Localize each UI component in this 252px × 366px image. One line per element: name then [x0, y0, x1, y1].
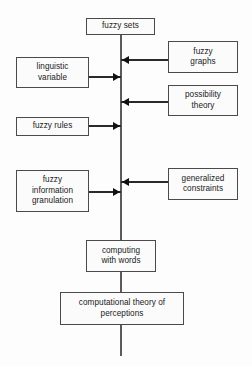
- spine-line-mid: [120, 272, 121, 292]
- spine-line-bottom: [120, 325, 121, 356]
- node-computing-with-words[interactable]: computing with words: [86, 240, 156, 272]
- arrowhead-possibility-theory: [122, 98, 129, 106]
- arrowhead-linguistic-variable: [113, 73, 120, 81]
- node-computational-theory-of-perceptions-label: computational theory of perceptions: [79, 298, 165, 319]
- node-fuzzy-rules[interactable]: fuzzy rules: [16, 117, 89, 136]
- node-fuzzy-graphs[interactable]: fuzzy graphs: [168, 41, 238, 73]
- node-linguistic-variable-label: linguistic variable: [37, 62, 69, 83]
- node-fuzzy-information-granulation-label: fuzzy information granulation: [32, 175, 73, 207]
- node-possibility-theory-label: possibility theory: [185, 90, 221, 111]
- node-fuzzy-sets[interactable]: fuzzy sets: [86, 18, 155, 35]
- node-fuzzy-graphs-label: fuzzy graphs: [190, 47, 215, 68]
- arrowhead-generalized-constraints: [122, 178, 129, 186]
- node-computational-theory-of-perceptions[interactable]: computational theory of perceptions: [60, 292, 184, 325]
- node-linguistic-variable[interactable]: linguistic variable: [16, 57, 89, 88]
- node-generalized-constraints-label: generalized constraints: [182, 174, 225, 195]
- node-fuzzy-information-granulation[interactable]: fuzzy information granulation: [16, 170, 89, 212]
- arrowhead-fuzzy-graphs: [122, 56, 129, 64]
- node-fuzzy-rules-label: fuzzy rules: [33, 121, 73, 132]
- fuzzy-logic-flowchart: fuzzy sets linguistic variable fuzzy gra…: [0, 0, 252, 366]
- node-fuzzy-sets-label: fuzzy sets: [102, 21, 139, 32]
- arrowhead-fuzzy-rules: [113, 122, 120, 130]
- spine-line-top: [120, 35, 121, 240]
- node-possibility-theory[interactable]: possibility theory: [168, 85, 238, 116]
- node-computing-with-words-label: computing with words: [101, 246, 140, 267]
- node-generalized-constraints[interactable]: generalized constraints: [168, 168, 238, 200]
- arrowhead-fuzzy-information-granulation: [113, 188, 120, 196]
